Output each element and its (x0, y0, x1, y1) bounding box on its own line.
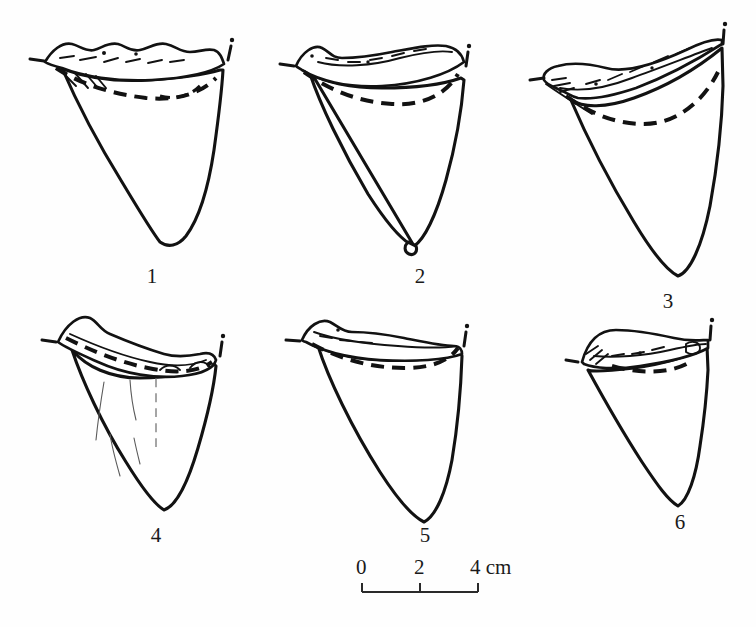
specimen-1-break-tick-left (30, 59, 44, 61)
specimen-5-root-speck (336, 328, 340, 332)
specimen-1-drawing (30, 38, 234, 246)
specimen-2-crown-outline (310, 74, 464, 246)
specimen-1-crown-outline (62, 68, 223, 245)
specimen-3-break-dot (723, 22, 727, 26)
specimen-label-4: 4 (136, 525, 176, 546)
specimen-6-break-tick-left (566, 360, 578, 362)
specimen-1-root-speck (134, 52, 138, 56)
specimen-6-break-dot (710, 318, 714, 322)
specimen-2-break-tick-left (280, 64, 294, 66)
specimen-2-drawing (280, 44, 471, 255)
specimen-1-root-speck (102, 51, 106, 55)
specimen-label-6: 6 (660, 512, 700, 533)
scale-tick-label-4-cm: 4 cm (470, 557, 511, 578)
specimen-5-break-tick (464, 332, 466, 346)
specimen-2-root-speck (310, 54, 314, 58)
scale-tick-label-2: 2 (414, 557, 425, 578)
specimen-5-crown-outline (318, 346, 462, 522)
specimen-4-break-tick (220, 342, 222, 356)
specimen-6-root-speck (638, 351, 641, 354)
specimen-2-root-speck (366, 60, 369, 63)
specimen-3-break-tick (723, 30, 724, 44)
specimen-3-break-tick-left (530, 78, 544, 80)
specimen-label-3: 3 (648, 291, 688, 312)
specimen-3-drawing (530, 22, 727, 276)
specimen-2-break-tick (466, 52, 468, 66)
scale-tick-label-0: 0 (356, 557, 367, 578)
specimen-4-break-dot (221, 334, 225, 338)
specimen-6-drawing (566, 318, 714, 506)
figure-plate: 1 2 3 4 5 6 0 2 4 cm (0, 0, 756, 627)
specimen-1-break-dot (230, 38, 234, 42)
specimen-5-break-tick-left (286, 340, 300, 341)
specimen-label-1: 1 (132, 266, 172, 287)
specimen-2-apex-notch (405, 242, 416, 255)
specimen-drawings (0, 0, 756, 627)
specimen-label-2: 2 (400, 266, 440, 287)
specimen-2-break-dot (467, 44, 471, 48)
scale-bar-rule (362, 583, 478, 592)
specimen-4-break-tick-left (42, 340, 56, 342)
specimen-6-break-tick (710, 326, 711, 340)
specimen-6-crown-outline (588, 346, 708, 506)
specimen-4-drawing (42, 317, 225, 510)
specimen-5-break-dot (465, 324, 469, 328)
specimen-1-break-tick (228, 46, 231, 60)
specimen-5-drawing (286, 321, 469, 522)
specimen-label-5: 5 (405, 525, 445, 546)
specimen-3-root-speck (594, 82, 598, 86)
specimen-3-root-speck (650, 66, 653, 69)
